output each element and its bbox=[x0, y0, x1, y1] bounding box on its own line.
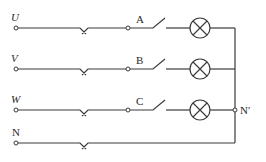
neutral-node-label: N′ bbox=[240, 104, 250, 116]
label-U: U bbox=[11, 11, 20, 23]
terminal-W bbox=[14, 108, 18, 112]
terminal-C bbox=[126, 108, 130, 112]
terminal-V bbox=[14, 67, 18, 71]
circuit-diagram: U V W N A B C N′ bbox=[0, 0, 266, 162]
circuit-svg: U V W N A B C N′ bbox=[0, 0, 266, 162]
line-V bbox=[14, 59, 235, 79]
label-N: N bbox=[12, 126, 20, 138]
line-U bbox=[14, 18, 235, 38]
label-W: W bbox=[11, 93, 21, 105]
switch-label-B: B bbox=[136, 54, 143, 66]
terminal-N bbox=[14, 141, 18, 145]
switch-label-C: C bbox=[136, 95, 143, 107]
terminal-B bbox=[126, 67, 130, 71]
line-N bbox=[14, 141, 235, 149]
terminal-U bbox=[14, 26, 18, 30]
terminal-A bbox=[126, 26, 130, 30]
line-W bbox=[14, 100, 233, 120]
label-V: V bbox=[11, 52, 19, 64]
switch-label-A: A bbox=[136, 13, 144, 25]
neutral-node bbox=[233, 108, 237, 112]
